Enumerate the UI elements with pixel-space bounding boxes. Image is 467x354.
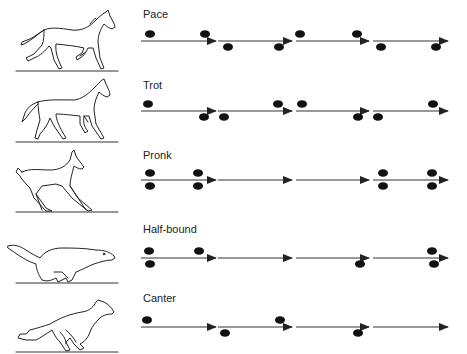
footfall-dot xyxy=(378,182,388,190)
track-trot xyxy=(141,100,448,121)
footfall-dot xyxy=(145,169,155,177)
footfall-dot xyxy=(199,113,209,121)
track-canter xyxy=(141,316,448,337)
track-half-bound xyxy=(141,247,448,268)
footfall-dot xyxy=(295,30,305,38)
footfall-dot xyxy=(373,113,383,121)
footfall-dot xyxy=(200,30,210,38)
footfall-dot xyxy=(297,100,307,108)
footfall-dot xyxy=(376,43,386,51)
footfall-dot xyxy=(220,329,230,337)
footfall-dot xyxy=(378,169,388,177)
footfall-dot xyxy=(352,30,362,38)
footfall-dot xyxy=(142,316,152,324)
track-pace xyxy=(141,30,448,51)
footfall-dot xyxy=(223,43,233,51)
footfall-dot xyxy=(193,169,203,177)
track-pronk xyxy=(141,169,448,190)
footfall-dot xyxy=(353,329,363,337)
footfall-dot xyxy=(274,43,284,51)
footfall-dot xyxy=(431,43,441,51)
footfall-dot xyxy=(145,260,155,268)
footfall-dot xyxy=(355,260,365,268)
footfall-dot xyxy=(275,316,285,324)
footfall-dot xyxy=(427,169,437,177)
footfall-tracks xyxy=(0,0,467,354)
footfall-dot xyxy=(145,182,155,190)
footfall-dot xyxy=(143,100,153,108)
footfall-dot xyxy=(353,113,363,121)
footfall-dot xyxy=(145,30,155,38)
footfall-dot xyxy=(429,260,439,268)
footfall-dot xyxy=(144,247,154,255)
footfall-dot xyxy=(219,113,229,121)
gait-diagram: Pace Trot Pronk Half-bound Canter xyxy=(0,0,467,354)
footfall-dot xyxy=(194,247,204,255)
footfall-dot xyxy=(273,100,283,108)
footfall-dot xyxy=(427,182,437,190)
footfall-dot xyxy=(427,247,437,255)
footfall-dot xyxy=(428,100,438,108)
footfall-dot xyxy=(193,182,203,190)
